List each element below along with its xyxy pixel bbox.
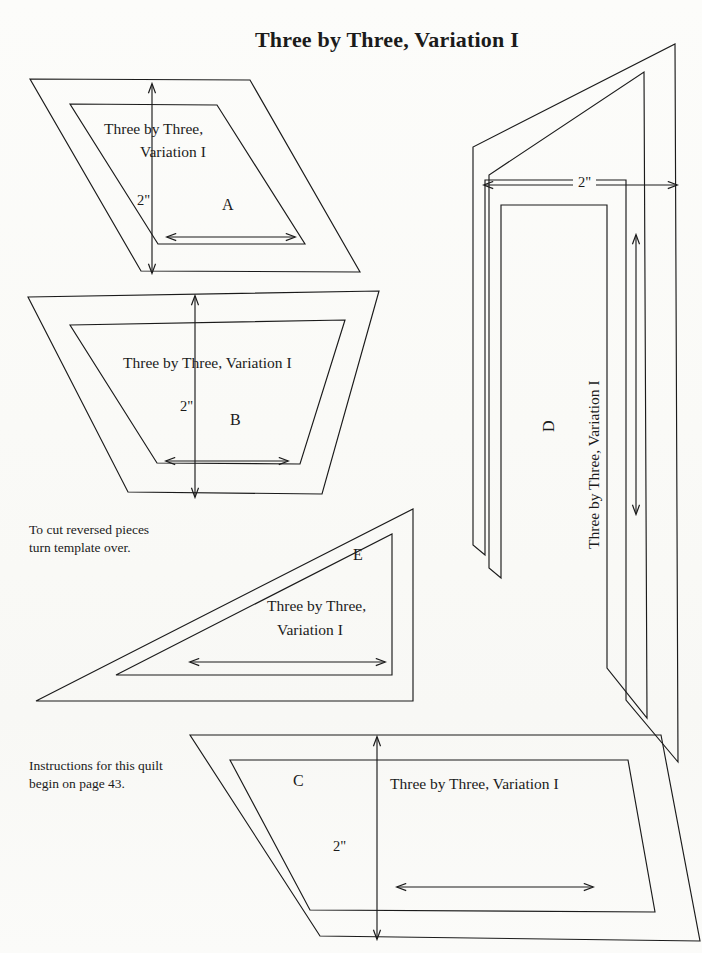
template-b-letter: B <box>230 411 241 429</box>
template-b-arrows <box>166 296 288 497</box>
template-e-caption-line1: Three by Three, <box>267 594 366 617</box>
template-a-outline <box>30 79 360 272</box>
template-d-caption-line1: Three by Three, Variation I <box>585 380 603 549</box>
template-e-caption-line2: Variation I <box>277 618 343 641</box>
template-page: Three by Three, Variation I Three by Thr… <box>0 0 702 953</box>
note-instructions-line2: begin on page 43. <box>29 775 125 793</box>
template-d-arrows <box>484 185 677 514</box>
note-reversed-pieces-line2: turn template over. <box>29 539 131 557</box>
template-e-letter: E <box>353 546 363 564</box>
template-d-outline <box>473 44 678 762</box>
template-d-letter: D <box>540 420 558 432</box>
template-b-dimension-label: 2" <box>180 398 193 415</box>
template-c-caption-line1: Three by Three, Variation I <box>390 772 559 795</box>
note-instructions-line1: Instructions for this quilt <box>29 757 163 775</box>
template-a-letter: A <box>222 196 234 214</box>
template-b-caption-line1: Three by Three, Variation I <box>123 351 292 374</box>
template-c-dimension-label: 2" <box>333 838 346 855</box>
template-a-caption-line2: Variation I <box>140 140 206 163</box>
template-b-outline <box>28 291 379 494</box>
page-title: Three by Three, Variation I <box>255 27 519 53</box>
template-c-arrows <box>377 737 593 939</box>
note-reversed-pieces-line1: To cut reversed pieces <box>29 521 149 539</box>
template-d-dimension-label: 2" <box>573 174 596 191</box>
template-a-arrows <box>152 84 295 273</box>
template-a-caption-line1: Three by Three, <box>104 117 203 140</box>
template-c-letter: C <box>293 772 304 790</box>
template-c-outline <box>190 735 700 941</box>
template-a-dimension-label: 2" <box>137 192 150 209</box>
